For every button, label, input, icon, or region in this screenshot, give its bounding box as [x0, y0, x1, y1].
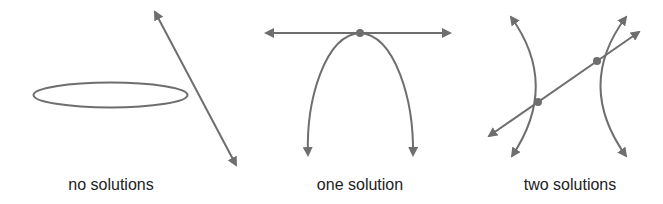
hyperbola-right-branch [601, 17, 627, 156]
panel-two-solutions [489, 17, 639, 156]
panel-no-solutions [34, 12, 237, 165]
hyperbola-left-branch [511, 17, 536, 156]
parabola-curve [308, 33, 413, 155]
caption-no-solutions: no solutions [68, 176, 153, 194]
intersection-point-left [534, 98, 542, 106]
intersection-point [356, 29, 364, 37]
ellipse-curve [34, 83, 188, 108]
caption-two-solutions: two solutions [524, 176, 617, 194]
panel-one-solution [266, 29, 450, 155]
secant-line [489, 32, 639, 136]
intersection-point-right [593, 57, 601, 65]
line-with-arrows [155, 12, 236, 165]
systems-of-equations-diagram [0, 0, 663, 204]
caption-one-solution: one solution [317, 176, 403, 194]
